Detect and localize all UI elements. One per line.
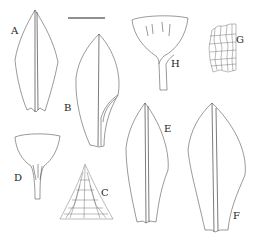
label-c: C	[101, 188, 109, 198]
figure-g-cells	[209, 24, 236, 72]
label-h: H	[171, 59, 180, 69]
label-f: F	[233, 211, 240, 221]
label-b: B	[64, 103, 71, 113]
figure-h-capsule	[132, 16, 188, 90]
figure-a-leaf	[15, 10, 58, 112]
label-g: G	[236, 35, 244, 45]
figure-d-structure	[15, 134, 60, 199]
illustration-plate	[0, 0, 256, 243]
label-d: D	[14, 173, 22, 183]
label-a: A	[11, 26, 18, 36]
label-e: E	[164, 124, 171, 134]
figure-b-leaf	[76, 34, 119, 147]
figure-e-leaf	[126, 103, 168, 223]
